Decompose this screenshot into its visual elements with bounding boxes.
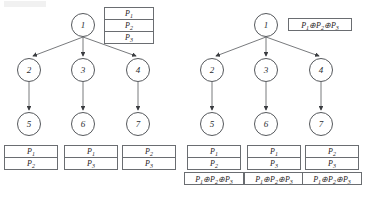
node-label: 2 <box>27 66 32 75</box>
packet-index: 2 <box>333 179 336 185</box>
node-4[interactable]: 4 <box>309 58 333 82</box>
node-5[interactable]: 5 <box>200 112 224 136</box>
table-row: P1 <box>5 146 57 158</box>
xor-operator-icon: ⊕ <box>321 175 328 184</box>
node-label: 4 <box>136 66 141 75</box>
table-row: P3 <box>123 158 175 169</box>
packet-index: 3 <box>275 163 278 169</box>
leaf-6-packet-table: P1 P3 <box>64 145 118 170</box>
node-label: 3 <box>81 66 86 75</box>
node-label: 3 <box>264 66 269 75</box>
leaf-7-packet-table: P2 P3 <box>122 145 176 170</box>
packet-index: 1 <box>306 25 309 31</box>
leaf-5-packet-table: P1 P2 <box>187 145 241 170</box>
node-label: 1 <box>264 21 269 30</box>
table-row: P3 <box>105 32 153 43</box>
node-label: 5 <box>27 120 32 129</box>
node-6[interactable]: 6 <box>71 112 95 136</box>
packet-index: 2 <box>215 163 218 169</box>
table-row: P1 <box>188 146 240 158</box>
packet-index: 1 <box>92 151 95 157</box>
node-6[interactable]: 6 <box>254 112 278 136</box>
node-label: 1 <box>81 21 86 30</box>
table-row: P2 <box>5 158 57 169</box>
node-label: 6 <box>264 120 269 129</box>
leaf-7-xor-formula: P1⊕P2⊕P3 <box>302 172 362 185</box>
packet-index: 1 <box>32 151 35 157</box>
packet-index: 3 <box>290 179 293 185</box>
packet-index: 2 <box>150 151 153 157</box>
leaf-6-xor-formula: P1⊕P2⊕P3 <box>244 172 304 185</box>
table-row: P2 <box>306 146 358 158</box>
xor-operator-icon: ⊕ <box>278 175 285 184</box>
packet-index: 3 <box>348 179 351 185</box>
node-2[interactable]: 2 <box>200 58 224 82</box>
table-row: P3 <box>248 158 300 169</box>
xor-operator-icon: ⊕ <box>203 175 210 184</box>
packet-index: 3 <box>92 163 95 169</box>
node-label: 2 <box>210 66 215 75</box>
xor-operator-icon: ⊕ <box>309 21 316 30</box>
table-row: P3 <box>306 158 358 169</box>
packet-index: 3 <box>333 163 336 169</box>
left-tree: 1 P1 P2 P3 2 3 4 5 6 7 <box>0 0 183 198</box>
table-row: P1 <box>248 146 300 158</box>
leaf-5-packet-table: P1 P2 <box>4 145 58 170</box>
node-5[interactable]: 5 <box>17 112 41 136</box>
table-row: P2 <box>123 146 175 158</box>
node-label: 7 <box>319 120 324 129</box>
node-3[interactable]: 3 <box>254 58 278 82</box>
leaf-6-packet-table: P1 P3 <box>247 145 301 170</box>
leaf-7-packet-table: P2 P3 <box>305 145 359 170</box>
xor-operator-icon: ⊕ <box>336 175 343 184</box>
node-1[interactable]: 1 <box>254 13 278 37</box>
figure-two-multicast-trees: 1 P1 P2 P3 2 3 4 5 6 7 <box>0 0 366 198</box>
xor-operator-icon: ⊕ <box>263 175 270 184</box>
node-1[interactable]: 1 <box>71 13 95 37</box>
packet-index: 3 <box>230 179 233 185</box>
packet-index: 2 <box>333 151 336 157</box>
packet-index: 1 <box>130 13 133 19</box>
node-7[interactable]: 7 <box>126 112 150 136</box>
packet-index: 2 <box>130 25 133 31</box>
table-row: P1 <box>105 8 153 20</box>
packet-index: 2 <box>321 25 324 31</box>
node-label: 6 <box>81 120 86 129</box>
packet-index: 1 <box>318 179 321 185</box>
packet-index: 3 <box>150 163 153 169</box>
xor-operator-icon: ⊕ <box>218 175 225 184</box>
packet-index: 1 <box>275 151 278 157</box>
node-label: 7 <box>136 120 141 129</box>
packet-index: 1 <box>200 179 203 185</box>
right-tree: 1 P1⊕P2⊕P3 2 3 4 5 6 7 P1 P2 <box>183 0 366 198</box>
node-4[interactable]: 4 <box>126 58 150 82</box>
leaf-5-xor-formula: P1⊕P2⊕P3 <box>184 172 244 185</box>
node-3[interactable]: 3 <box>71 58 95 82</box>
table-row: P1 <box>65 146 117 158</box>
node-7[interactable]: 7 <box>309 112 333 136</box>
table-row: P2 <box>105 20 153 32</box>
root-xor-formula: P1⊕P2⊕P3 <box>288 18 352 31</box>
packet-index: 2 <box>275 179 278 185</box>
xor-operator-icon: ⊕ <box>324 21 331 30</box>
table-row: P2 <box>188 158 240 169</box>
packet-index: 1 <box>215 151 218 157</box>
packet-index: 2 <box>32 163 35 169</box>
root-packet-table: P1 P2 P3 <box>104 7 154 44</box>
packet-index: 3 <box>130 37 133 43</box>
packet-index: 3 <box>336 25 339 31</box>
node-label: 5 <box>210 120 215 129</box>
packet-index: 2 <box>215 179 218 185</box>
node-2[interactable]: 2 <box>17 58 41 82</box>
table-row: P3 <box>65 158 117 169</box>
packet-index: 1 <box>260 179 263 185</box>
node-label: 4 <box>319 66 324 75</box>
